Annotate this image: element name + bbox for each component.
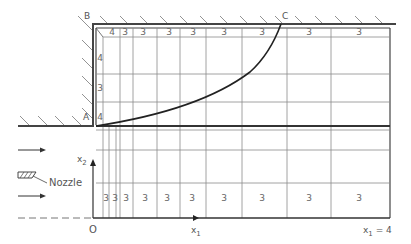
top-row-cell-label: 3 (139, 27, 147, 37)
top-row-cell-label: 3 (220, 27, 228, 37)
x2-arrow-icon (90, 159, 96, 166)
top-row-cell-label: 3 (258, 27, 266, 37)
wall-outline (18, 24, 396, 126)
nozzle-label: Nozzle (49, 177, 82, 188)
bottom-row-cell-label: 3 (355, 193, 363, 203)
bottom-row-cell-label: 3 (102, 193, 110, 203)
bottom-row-cell-label: 3 (258, 193, 266, 203)
arrow-right-icon (40, 148, 46, 153)
x1-axis-label: x1 (191, 225, 201, 238)
point-a-label: A (83, 112, 89, 122)
top-row-cell-label: 3 (165, 27, 173, 37)
streamline-curve (96, 24, 281, 126)
arrow-right-icon (40, 194, 46, 199)
bottom-row-cell-label: 3 (163, 193, 171, 203)
bottom-row-cell-label: 3 (188, 193, 196, 203)
x1-arrow-icon (193, 215, 199, 221)
corner-diagonal (96, 28, 103, 37)
top-row-cell-label: 3 (189, 27, 197, 37)
bottom-row-cell-label: 3 (141, 193, 149, 203)
top-row-cell-label: 3 (355, 27, 363, 37)
left-col-cell-label: 4 (96, 112, 104, 122)
nozzle-icon (18, 172, 47, 183)
bottom-row-cell-label: 3 (122, 193, 130, 203)
step-hatching (20, 116, 82, 126)
x1-end-label: x1 = 4 (363, 225, 392, 238)
left-col-cell-label: 3 (96, 83, 104, 93)
top-row-cell-label: 3 (121, 27, 129, 37)
bottom-row-cell-label: 3 (220, 193, 228, 203)
bottom-row-cell-label: 3 (305, 193, 313, 203)
point-o-label: O (89, 224, 97, 235)
point-b-label: B (84, 11, 90, 21)
x2-axis-label: x2 (77, 154, 87, 167)
point-c-label: C (282, 11, 288, 21)
top-wall-hatching (100, 16, 383, 24)
grid-vertical-lines (103, 28, 331, 218)
top-row-cell-label: 4 (108, 27, 116, 37)
grid-horizontal-lines (96, 37, 390, 183)
left-wall-hatching (78, 16, 92, 118)
top-row-cell-label: 3 (305, 27, 313, 37)
left-col-cell-label: 4 (96, 53, 104, 63)
diagram-canvas: B C A O Nozzle x2 x1 x1 = 4 433333333434… (0, 0, 411, 244)
bottom-row-cell-label: 3 (111, 193, 119, 203)
inflow-arrows (18, 148, 46, 199)
